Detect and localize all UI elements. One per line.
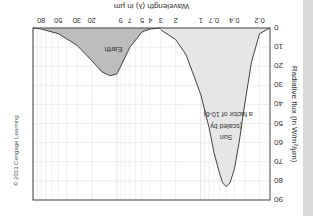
sun-annotation: a factor of 10-6) [203,110,252,118]
y-tick-label: 70 [273,157,282,166]
x-tick-label: 50 [54,16,62,25]
x-tick-label: 80 [37,16,45,25]
sun-annotation: (scaled by [210,122,242,130]
radiative-flux-chart: 01020304050607080900.20.40.7123457920305… [0,0,313,216]
y-tick-label: 60 [273,138,282,147]
x-tick-label: 4 [148,16,152,25]
earth-area [33,28,161,76]
y-tick-label: 40 [273,99,282,108]
copyright-text: © 2013 Cengage Learning [13,116,19,186]
x-tick-label: 0.2 [254,16,264,25]
x-tick-label: 3 [159,16,163,25]
x-tick-label: 0.4 [229,16,239,25]
x-tick-label: 20 [87,16,95,25]
x-tick-label: 9 [119,16,123,25]
x-tick-label: 7 [128,16,132,25]
x-tick-label: 0.7 [209,16,219,25]
y-tick-label: 10 [273,42,282,51]
sun-annotation: Sun [220,134,233,141]
x-tick-label: 1 [199,16,203,25]
y-tick-label: 50 [273,119,282,128]
earth-annotation: Earth [104,45,122,54]
y-tick-label: 0 [273,23,278,32]
y-tick-label: 80 [273,176,282,185]
y-tick-label: 30 [273,80,282,89]
x-axis-label: Wavelength (λ) in µm [113,2,189,11]
sun-area [161,28,270,187]
x-tick-label: 5 [140,16,144,25]
x-tick-label: 30 [73,16,81,25]
side-strip [303,0,313,216]
y-tick-label: 20 [273,61,282,70]
chart-figure: 01020304050607080900.20.40.7123457920305… [0,0,313,216]
x-tick-label: 2 [174,16,178,25]
y-tick-label: 90 [273,195,282,204]
y-axis-label: Radiative flux (in W/m²/µm) [290,66,299,163]
